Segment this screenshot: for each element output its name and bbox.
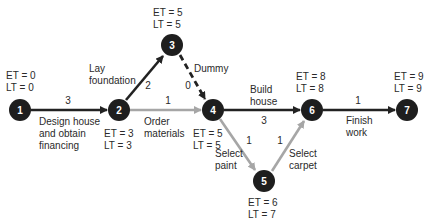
edge-5-6-activity-line1: Select bbox=[289, 148, 317, 159]
edge-1-2: 3 Design house and obtain financing bbox=[31, 95, 107, 151]
pert-network-diagram: 3 Design house and obtain financing 2 La… bbox=[0, 0, 432, 224]
edge-2-4-duration: 1 bbox=[165, 95, 171, 106]
node-7: 7 ET = 9 LT = 9 bbox=[394, 71, 424, 121]
edge-1-2-duration: 3 bbox=[65, 95, 71, 106]
node-6-et: ET = 8 bbox=[296, 71, 326, 82]
node-1-et: ET = 0 bbox=[6, 70, 36, 81]
node-7-lt: LT = 9 bbox=[394, 83, 422, 94]
node-7-et: ET = 9 bbox=[394, 71, 424, 82]
edge-4-5: 1 Select paint bbox=[215, 119, 255, 171]
node-2-et: ET = 3 bbox=[104, 128, 134, 139]
node-2-label: 2 bbox=[116, 105, 122, 116]
node-4-et: ET = 5 bbox=[193, 128, 223, 139]
node-5-et: ET = 6 bbox=[248, 197, 278, 208]
node-3-et: ET = 5 bbox=[153, 7, 183, 18]
edge-6-7-duration: 1 bbox=[355, 95, 361, 106]
node-6-lt: LT = 8 bbox=[296, 83, 324, 94]
edge-5-6-duration: 1 bbox=[277, 135, 283, 146]
node-4-label: 4 bbox=[210, 105, 216, 116]
node-5-label: 5 bbox=[261, 176, 267, 187]
edge-6-7-activity-line1: Finish bbox=[346, 115, 373, 126]
edge-4-6-activity-line2: house bbox=[250, 96, 278, 107]
edge-2-3-activity-line1: Lay bbox=[89, 63, 105, 74]
edge-3-4-dummy: 0 Dummy bbox=[180, 55, 228, 99]
edge-2-4-activity-line2: materials bbox=[144, 128, 185, 139]
edge-6-7-activity-line2: work bbox=[345, 127, 368, 138]
edge-5-6-activity-line2: carpet bbox=[289, 160, 317, 171]
node-2-lt: LT = 3 bbox=[104, 140, 132, 151]
node-3-lt: LT = 5 bbox=[153, 19, 181, 30]
edge-4-5-duration: 1 bbox=[246, 135, 252, 146]
edge-3-4-duration: 0 bbox=[185, 80, 191, 91]
edge-1-2-activity-line1: Design house bbox=[39, 116, 101, 127]
edge-2-3-activity-line2: foundation bbox=[89, 75, 136, 86]
edge-4-5-activity-line2: paint bbox=[215, 160, 237, 171]
node-1: 1 ET = 0 LT = 0 bbox=[6, 70, 36, 121]
node-4: 4 ET = 5 LT = 5 bbox=[193, 99, 224, 151]
edge-1-2-activity-line2: and obtain bbox=[39, 128, 86, 139]
edge-2-4: 1 Order materials bbox=[130, 95, 201, 139]
node-6: 6 ET = 8 LT = 8 bbox=[296, 71, 326, 121]
edge-2-3-duration: 2 bbox=[145, 80, 151, 91]
edge-4-6: 3 Build house bbox=[224, 84, 300, 126]
edge-4-6-duration: 3 bbox=[261, 115, 267, 126]
node-5: 5 ET = 6 LT = 7 bbox=[248, 170, 278, 220]
edge-4-6-activity-line1: Build bbox=[250, 84, 272, 95]
node-5-lt: LT = 7 bbox=[248, 209, 276, 220]
node-2: 2 ET = 3 LT = 3 bbox=[104, 99, 134, 151]
node-6-label: 6 bbox=[309, 105, 315, 116]
node-3: 3 ET = 5 LT = 5 bbox=[153, 7, 183, 56]
edge-6-7: 1 Finish work bbox=[323, 95, 395, 138]
edge-1-2-activity-line3: financing bbox=[39, 140, 79, 151]
edge-3-4-activity: Dummy bbox=[194, 63, 228, 74]
edge-2-4-activity-line1: Order bbox=[144, 116, 170, 127]
node-1-label: 1 bbox=[17, 105, 23, 116]
edge-5-6: 1 Select carpet bbox=[272, 121, 317, 171]
node-1-lt: LT = 0 bbox=[6, 82, 34, 93]
node-3-label: 3 bbox=[169, 40, 175, 51]
node-4-lt: LT = 5 bbox=[193, 140, 221, 151]
edge-2-3: 2 Lay foundation bbox=[89, 56, 163, 100]
node-7-label: 7 bbox=[404, 105, 410, 116]
